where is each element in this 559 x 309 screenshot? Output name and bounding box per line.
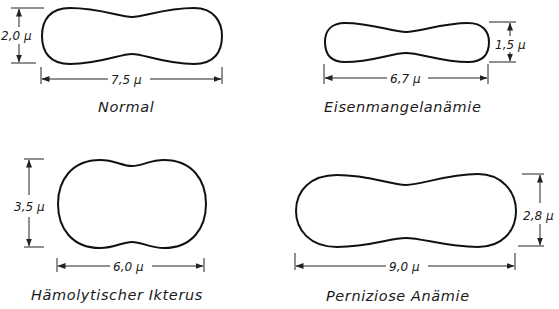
cell-outline-haemolytischer-ikterus — [58, 160, 206, 248]
erythrocyte-diagram: 2,0 μ 7,5 μ Normal 1,5 μ 6,7 μ Eisenmang… — [0, 0, 559, 309]
cell-outline-normal — [42, 8, 222, 64]
width-label-normal: 7,5 μ — [111, 73, 142, 87]
height-label-eisenmangelanaemie: 1,5 μ — [495, 38, 526, 52]
panel-title-normal: Normal — [98, 99, 154, 115]
panel-perniziose-anaemie: 2,8 μ 9,0 μ Perniziose Anämie — [295, 174, 554, 304]
panel-title-eisenmangelanaemie: Eisenmangelanämie — [324, 99, 481, 115]
panel-eisenmangelanaemie: 1,5 μ 6,7 μ Eisenmangelanämie — [324, 22, 526, 115]
height-label-perniziose-anaemie: 2,8 μ — [523, 209, 554, 223]
cell-outline-perniziose-anaemie — [296, 174, 516, 247]
height-label-haemolytischer-ikterus: 3,5 μ — [14, 200, 45, 214]
height-label-normal: 2,0 μ — [1, 29, 32, 43]
panel-title-haemolytischer-ikterus: Hämolytischer Ikterus — [31, 287, 203, 303]
cell-outline-eisenmangelanaemie — [325, 23, 489, 62]
panel-normal: 2,0 μ 7,5 μ Normal — [1, 8, 222, 115]
panel-haemolytischer-ikterus: 3,5 μ 6,0 μ Hämolytischer Ikterus — [14, 159, 206, 303]
width-label-haemolytischer-ikterus: 6,0 μ — [113, 260, 144, 274]
width-label-perniziose-anaemie: 9,0 μ — [389, 260, 420, 274]
width-label-eisenmangelanaemie: 6,7 μ — [390, 72, 421, 86]
panel-title-perniziose-anaemie: Perniziose Anämie — [326, 288, 470, 304]
